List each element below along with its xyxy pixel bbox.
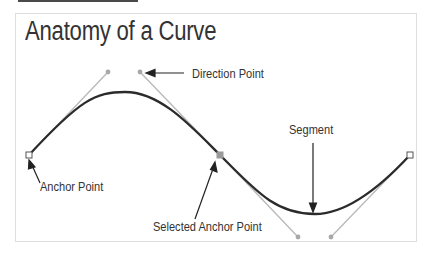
- anchor-point: [407, 152, 413, 158]
- direction-point: [296, 235, 301, 240]
- selected-anchor-point-label: Selected Anchor Point: [153, 219, 262, 234]
- arrowhead-icon: [310, 203, 317, 212]
- arrowhead-icon: [29, 160, 36, 169]
- direction-point: [138, 70, 143, 75]
- segment-label: Segment: [289, 122, 333, 137]
- arrowhead-icon: [211, 162, 218, 172]
- direction-point-label: Direction Point: [192, 66, 264, 81]
- anchor-point: [26, 152, 32, 158]
- direction-point: [329, 235, 334, 240]
- anchor-point-label: Anchor Point: [40, 179, 103, 194]
- curve-diagram: [0, 0, 428, 253]
- direction-point: [106, 70, 111, 75]
- callout-arrows: [29, 70, 317, 220]
- arrowhead-icon: [146, 70, 155, 77]
- selected-anchor-point: [217, 152, 224, 159]
